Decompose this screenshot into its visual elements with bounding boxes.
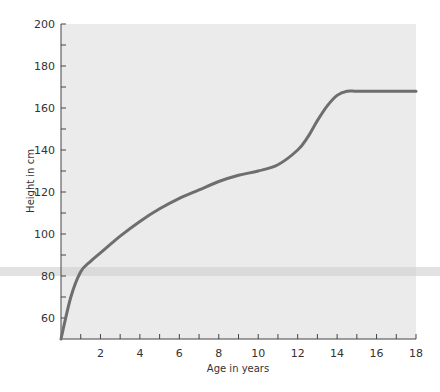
plot-background [61, 24, 416, 339]
y-tick-label: 200 [34, 18, 55, 31]
y-tick-label: 100 [34, 228, 55, 241]
y-axis-title: Height in cm [25, 149, 36, 213]
y-tick-label: 180 [34, 60, 55, 73]
y-tick-label: 140 [34, 144, 55, 157]
x-tick-label: 18 [409, 347, 423, 360]
x-tick-label: 12 [291, 347, 305, 360]
x-tick-label: 8 [215, 347, 222, 360]
x-tick-label: 6 [176, 347, 183, 360]
x-tick-label: 16 [370, 347, 384, 360]
horizontal-band [0, 267, 440, 276]
x-tick-label: 14 [330, 347, 344, 360]
x-tick-label: 4 [136, 347, 143, 360]
y-tick-label: 80 [41, 270, 55, 283]
x-axis-title: Age in years [207, 363, 269, 374]
y-tick-label: 160 [34, 102, 55, 115]
y-tick-label: 120 [34, 186, 55, 199]
x-tick-label: 10 [251, 347, 265, 360]
height-growth-chart: 6080100120140160180200 24681012141618 Ag… [0, 0, 440, 392]
x-tick-label: 2 [97, 347, 104, 360]
y-tick-label: 60 [41, 312, 55, 325]
